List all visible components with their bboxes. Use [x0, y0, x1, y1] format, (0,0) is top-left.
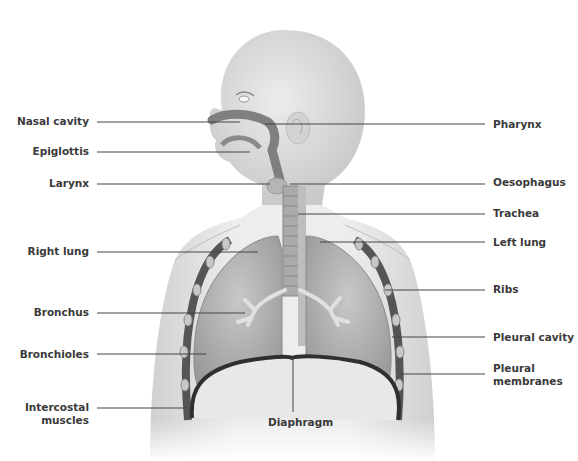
- label-oesophagus: Oesophagus: [493, 176, 566, 189]
- label-intercostal-muscles: Intercostal muscles: [25, 401, 89, 427]
- label-right-lung: Right lung: [28, 245, 89, 258]
- label-epiglottis: Epiglottis: [32, 145, 89, 158]
- respiratory-diagram: Nasal cavity Epiglottis Larynx Right lun…: [0, 0, 578, 461]
- label-ribs: Ribs: [493, 283, 518, 296]
- diaphragm-muscle: [192, 356, 399, 420]
- label-trachea: Trachea: [493, 207, 539, 220]
- label-pleural-line2: membranes: [493, 375, 563, 388]
- label-bronchioles: Bronchioles: [20, 348, 89, 361]
- label-left-lung: Left lung: [493, 236, 546, 249]
- label-intercostal-line2: muscles: [25, 414, 89, 427]
- label-intercostal-line1: Intercostal: [25, 401, 89, 414]
- label-pleural-cavity: Pleural cavity: [493, 331, 574, 344]
- label-nasal-cavity: Nasal cavity: [17, 115, 89, 128]
- label-pleural-line1: Pleural: [493, 362, 563, 375]
- anatomy-illustration: [0, 0, 578, 461]
- label-bronchus: Bronchus: [34, 306, 89, 319]
- label-pleural-membranes: Pleural membranes: [493, 362, 563, 388]
- label-diaphragm: Diaphragm: [268, 416, 333, 429]
- label-pharynx: Pharynx: [493, 118, 542, 131]
- label-larynx: Larynx: [49, 177, 89, 190]
